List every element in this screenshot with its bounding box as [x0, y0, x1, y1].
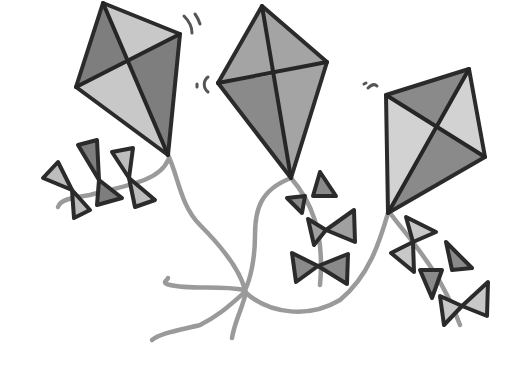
left-kite: [76, 3, 180, 155]
middle-kite: [218, 6, 327, 178]
kites-illustration: Three kites with bow tails: [0, 0, 515, 368]
kites-canvas: [0, 0, 515, 368]
right-kite: [386, 69, 485, 213]
